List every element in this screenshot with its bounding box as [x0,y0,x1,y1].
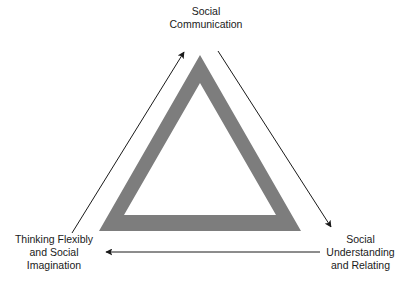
node-label-social-understanding-and-relating: Social Understanding and Relating [318,233,403,272]
diagram-canvas: Social Communication Thinking Flexibly a… [0,0,403,288]
label-line: Social [318,233,403,246]
label-line: Communication [141,18,271,31]
label-line: Understanding [318,246,403,259]
label-line: and Social [4,246,104,259]
node-label-social-communication: Social Communication [141,5,271,31]
node-label-thinking-flexibly-and-social-imagination: Thinking Flexibly and Social Imagination [4,233,104,272]
triangle-band-shape [99,55,301,231]
label-line: Thinking Flexibly [4,233,104,246]
label-line: Imagination [4,259,104,272]
label-line: Social [141,5,271,18]
label-line: and Relating [318,259,403,272]
